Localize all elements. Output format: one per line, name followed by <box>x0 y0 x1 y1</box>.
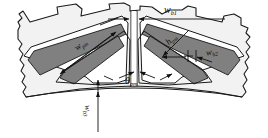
label-w-b3: wb3 <box>83 105 92 117</box>
rotor-cross-section-figure: wb1 wb2 wb3 wpm hpm θpm <box>0 0 268 138</box>
label-w-b1: wb1 <box>164 5 177 15</box>
rotor-diagram-svg <box>0 0 268 138</box>
label-theta-pm: θpm <box>125 76 137 86</box>
center-bridge-rib <box>131 11 137 86</box>
label-w-b2: wb2 <box>205 47 218 58</box>
